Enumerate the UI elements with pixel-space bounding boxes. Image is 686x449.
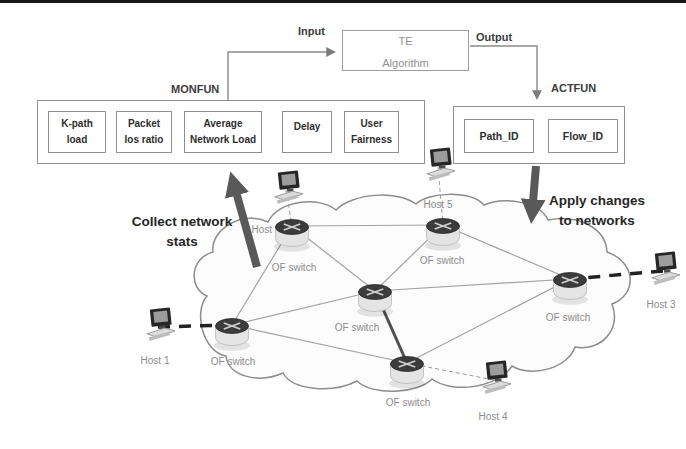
monfun-item-line: load <box>67 135 88 145</box>
monfun-item-line: Network Load <box>190 135 256 145</box>
monfun-item-delay: Delay <box>282 111 332 153</box>
actfun-item-flow-id: Flow_ID <box>548 119 618 153</box>
host-label-h1: Host 1 <box>141 355 170 366</box>
scan-edge-artifact <box>0 0 686 3</box>
monfun-item-average-network-load: Average Network Load <box>184 111 262 153</box>
of-switch-label: OF switch <box>335 322 379 333</box>
caption-line: stats <box>103 232 261 252</box>
of-switch-icon <box>389 357 425 389</box>
te-box-line1: TE <box>398 35 412 47</box>
of-switch-icon <box>552 273 588 305</box>
of-switch-label: OF switch <box>386 397 430 408</box>
host-label-h5: Host 5 <box>424 199 453 210</box>
of-switch-label: OF switch <box>420 255 464 266</box>
monfun-item-packet-los-ratio: Packet los ratio <box>116 111 172 153</box>
monfun-item-line: Delay <box>294 122 321 132</box>
monfun-item-line: los ratio <box>125 135 164 145</box>
of-switch-icon <box>357 285 393 317</box>
figure-canvas: OF switchOF switchOF switchOF switchOF s… <box>0 0 686 449</box>
monfun-box: K-path load Packet los ratio Average Net… <box>37 100 425 164</box>
of-switch-icon <box>425 219 461 251</box>
apply-changes-caption: Apply changes to networks <box>536 191 658 230</box>
output-label: Output <box>476 31 512 43</box>
monfun-item-kpath-load: K-path load <box>48 111 106 153</box>
caption-line: Collect network <box>103 212 261 232</box>
actfun-item-path-id: Path_ID <box>464 119 534 153</box>
of-switch-label: OF switch <box>211 356 255 367</box>
host-computer-icon <box>144 307 176 341</box>
monfun-item-line: Average <box>203 119 242 129</box>
input-arrow <box>228 52 334 100</box>
of-switch-icon <box>214 319 250 351</box>
caption-line: to networks <box>536 211 658 231</box>
host-computer-icon <box>649 251 681 285</box>
monfun-label: MONFUN <box>171 83 219 95</box>
host-label-h4: Host 4 <box>479 411 508 422</box>
of-switch-label: OF switch <box>546 312 590 323</box>
host-label-h3: Host 3 <box>647 299 676 310</box>
monfun-item-line: User <box>360 119 382 129</box>
monfun-item-line: Fairness <box>351 135 392 145</box>
caption-line: Apply changes <box>536 191 658 211</box>
te-box-line2: Algorithm <box>382 57 428 69</box>
input-label: Input <box>298 25 325 37</box>
actfun-label: ACTFUN <box>551 82 596 94</box>
te-algorithm-box: TE Algorithm <box>342 30 469 71</box>
of-switch-label: OF switch <box>272 262 316 273</box>
host-computer-icon <box>424 147 456 181</box>
actfun-box: Path_ID Flow_ID <box>453 106 625 164</box>
output-arrow <box>470 46 537 98</box>
of-switch-icon <box>274 220 310 252</box>
monfun-item-line: K-path <box>61 119 93 129</box>
host-computer-icon <box>272 170 304 204</box>
collect-network-stats-caption: Collect network stats <box>103 212 261 251</box>
monfun-item-user-fairness: User Fairness <box>344 111 399 153</box>
monfun-item-line: Packet <box>128 119 160 129</box>
